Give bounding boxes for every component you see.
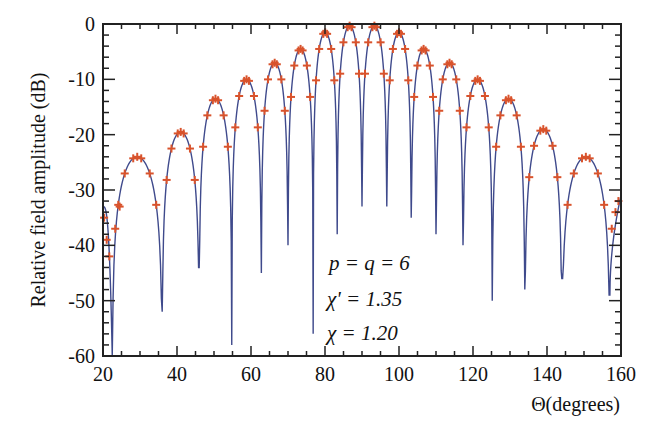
annotation-chi: χ = 1.20 (325, 321, 398, 345)
x-tick-label: 120 (458, 363, 488, 385)
x-tick-label: 40 (167, 363, 187, 385)
x-axis-title: Θ(degrees) (531, 393, 620, 416)
x-tick-label: 160 (606, 363, 636, 385)
chart: 20406080100120140160 0-10-20-30-40-50-60… (0, 0, 661, 438)
y-tick-label: -10 (68, 68, 95, 90)
y-axis-title: Relative field amplitude (dB) (27, 73, 50, 308)
x-tick-labels: 20406080100120140160 (93, 363, 636, 385)
y-tick-label: -40 (68, 234, 95, 256)
y-tick-label: -50 (68, 290, 95, 312)
annotation-chi-prime: χ' = 1.35 (325, 287, 402, 311)
y-tick-label: -20 (68, 124, 95, 146)
x-tick-label: 60 (241, 363, 261, 385)
x-tick-label: 100 (384, 363, 414, 385)
x-tick-label: 140 (532, 363, 562, 385)
y-tick-label: 0 (85, 13, 95, 35)
y-tick-label: -30 (68, 179, 95, 201)
annotation-pq: p = q = 6 (327, 251, 410, 275)
y-tick-label: -60 (68, 345, 95, 367)
x-tick-label: 80 (315, 363, 335, 385)
y-tick-labels: 0-10-20-30-40-50-60 (68, 13, 95, 367)
x-tick-label: 20 (93, 363, 113, 385)
parameter-annotation: p = q = 6 χ' = 1.35 χ = 1.20 (325, 251, 410, 345)
